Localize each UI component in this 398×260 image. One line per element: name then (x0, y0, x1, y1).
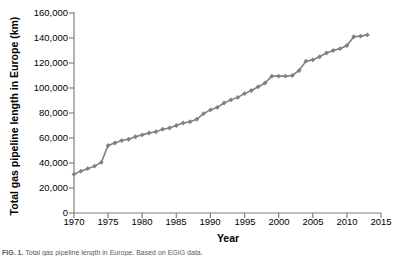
data-point (147, 131, 152, 136)
data-point (78, 169, 83, 174)
data-point (106, 143, 111, 148)
x-axis-tick-labels: 1970 1975 1980 1985 1990 1995 2000 2005 … (0, 216, 398, 232)
figure-container: Total gas pipeline length in Europe (km)… (0, 0, 398, 260)
x-axis-title: Year (74, 232, 382, 244)
data-point (85, 166, 90, 171)
data-point (365, 32, 370, 37)
data-point (126, 137, 131, 142)
data-point (119, 138, 124, 143)
data-point (140, 132, 145, 137)
data-point (72, 172, 77, 177)
data-point (113, 141, 118, 146)
data-point (174, 123, 179, 128)
data-point (133, 134, 138, 139)
data-point (331, 48, 336, 53)
figure-caption-label: FIG. 1. (2, 249, 23, 256)
figure-caption-text: Total gas pipeline length in Europe. Bas… (25, 249, 202, 256)
data-point (310, 57, 315, 62)
data-point (229, 97, 234, 102)
data-point (283, 74, 288, 79)
data-point (160, 127, 165, 132)
series-line (74, 35, 367, 174)
data-point (181, 121, 186, 126)
data-point (188, 119, 193, 124)
data-point (153, 129, 158, 134)
x-tick-label: 1990 (190, 216, 230, 227)
data-point (276, 74, 281, 79)
data-point (358, 34, 363, 39)
data-point (338, 46, 343, 51)
y-axis-ticks (69, 13, 74, 213)
x-tick-label: 2015 (361, 216, 398, 227)
data-point (167, 126, 172, 131)
figure-caption: FIG. 1. Total gas pipeline length in Eur… (2, 249, 394, 256)
